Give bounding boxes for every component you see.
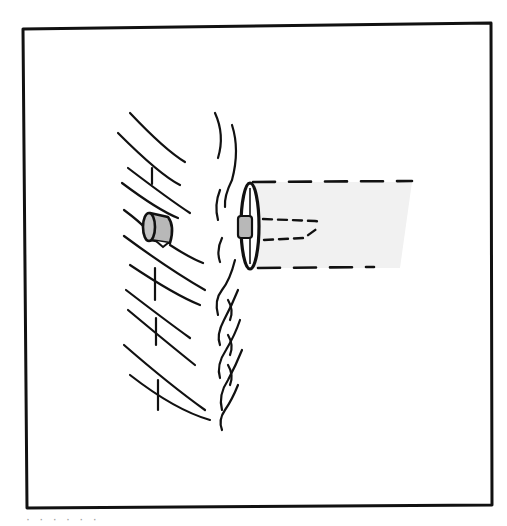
projection-shading bbox=[252, 182, 412, 268]
rope-fibers-left bbox=[118, 113, 210, 420]
twisted-rope bbox=[215, 113, 242, 430]
bolt-left bbox=[143, 213, 172, 247]
bolt-head-right bbox=[238, 216, 252, 238]
caption-fragment: · · · · · · bbox=[26, 512, 100, 526]
illustration bbox=[0, 0, 507, 526]
